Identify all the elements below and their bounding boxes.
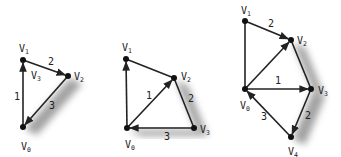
edges bbox=[23, 21, 311, 137]
annotation-label: V3 bbox=[31, 70, 41, 83]
edge-weight-label: 2 bbox=[268, 18, 274, 29]
edge-v0-v1 bbox=[126, 62, 127, 128]
edge-weight-label: 2 bbox=[188, 93, 194, 104]
graph-diagrams: 123V0V1V2V3123V0V1V2V32123V0V1V2V3V4 bbox=[0, 0, 341, 157]
edge-v4-v0 bbox=[247, 91, 291, 137]
edge-shadows bbox=[25, 42, 325, 145]
vertex-v2 bbox=[288, 37, 294, 43]
vertex-label-v0: V0 bbox=[125, 139, 135, 152]
vertex-label-v0: V0 bbox=[240, 100, 250, 113]
diagram-canvas: 123V0V1V2V3123V0V1V2V32123V0V1V2V3V4 bbox=[0, 0, 341, 157]
vertex-v1 bbox=[242, 18, 248, 24]
edge-weight-label: 1 bbox=[275, 75, 281, 86]
vertex-v3 bbox=[308, 86, 314, 92]
vertex-label-v2: V2 bbox=[181, 71, 191, 84]
vertex-v2 bbox=[65, 73, 71, 79]
vertex-v1 bbox=[20, 57, 26, 63]
edge-weight-label: 3 bbox=[49, 100, 55, 111]
edge-weight-label: 2 bbox=[305, 110, 311, 121]
vertex-label-v0: V0 bbox=[21, 141, 31, 154]
vertex-label-v1: V1 bbox=[122, 42, 132, 55]
vertex-label-v1: V1 bbox=[241, 5, 251, 18]
edge-weight-label: 1 bbox=[14, 91, 20, 102]
vertex-v4 bbox=[288, 134, 294, 140]
edge-weight-label: 3 bbox=[164, 131, 170, 142]
vertex-label-v1: V1 bbox=[19, 43, 29, 56]
edge-v1-v2 bbox=[245, 21, 288, 39]
vertex-v2 bbox=[171, 75, 177, 81]
edge-v1-v2 bbox=[126, 59, 174, 78]
vertex-v0 bbox=[124, 125, 130, 131]
edge-weight-label: 1 bbox=[146, 90, 152, 101]
vertices bbox=[20, 18, 314, 140]
edge-v1-v2 bbox=[23, 60, 65, 75]
edge-v0-v2 bbox=[245, 42, 289, 89]
edge-weight-label: 2 bbox=[48, 56, 54, 67]
vertex-v3 bbox=[191, 125, 197, 131]
vertex-v0 bbox=[242, 86, 248, 92]
vertex-v1 bbox=[123, 56, 129, 62]
vertex-label-v4: V4 bbox=[288, 146, 298, 157]
edge-weight-label: 3 bbox=[261, 111, 267, 122]
vertex-v0 bbox=[20, 124, 26, 130]
edge-v0-v2 bbox=[127, 80, 172, 128]
